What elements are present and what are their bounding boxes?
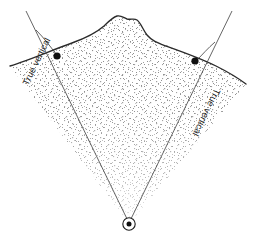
geodesy-diagram: True vertical True vertical: [0, 0, 258, 236]
mountain-terrain: [0, 0, 258, 236]
plumb-bob: [191, 57, 198, 64]
earth-center-marker: [123, 218, 135, 230]
plumb-bob: [53, 52, 60, 59]
figure-root: True vertical True vertical: [0, 0, 258, 236]
